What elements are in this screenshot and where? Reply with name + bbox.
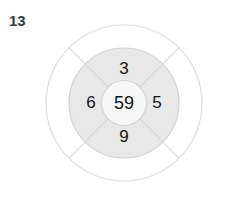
segment-value-right: 5: [152, 93, 161, 112]
segment-value-bottom: 9: [119, 127, 128, 146]
segment-value-top: 3: [119, 59, 128, 78]
center-value: 59: [114, 93, 134, 113]
puzzle-figure: 13 3 5 9 6 59: [0, 0, 225, 203]
concentric-wheel-diagram: 3 5 9 6 59: [0, 0, 225, 203]
segment-value-left: 6: [86, 93, 95, 112]
